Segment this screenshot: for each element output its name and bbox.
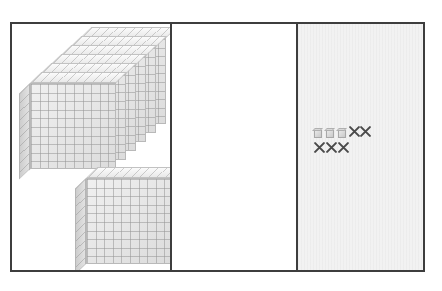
stacked-hundred-flats[interactable] xyxy=(30,38,160,158)
flat-face xyxy=(86,178,172,264)
empty-work-panel[interactable] xyxy=(172,24,298,270)
flat-side-edge xyxy=(75,178,86,270)
unit-cube-2[interactable] xyxy=(326,130,334,138)
hundreds-flats-panel xyxy=(12,24,172,270)
single-hundred-flat[interactable] xyxy=(74,166,172,266)
x-mark-r2-2[interactable] xyxy=(326,142,337,153)
flat-side-edge xyxy=(19,83,30,180)
x-mark-r1-1[interactable] xyxy=(349,126,360,137)
x-mark-r2-1[interactable] xyxy=(314,142,325,153)
flat-top-edge xyxy=(86,167,172,178)
flat-face xyxy=(30,83,116,169)
x-mark-r1-2[interactable] xyxy=(360,126,371,137)
x-mark-r2-3[interactable] xyxy=(338,142,349,153)
unit-cube-1[interactable] xyxy=(314,130,322,138)
flat-top-edge xyxy=(30,72,127,83)
unit-cubes-and-crossouts-panel xyxy=(298,24,423,270)
worksheet-frame xyxy=(10,22,425,272)
unit-cube-3[interactable] xyxy=(338,130,346,138)
